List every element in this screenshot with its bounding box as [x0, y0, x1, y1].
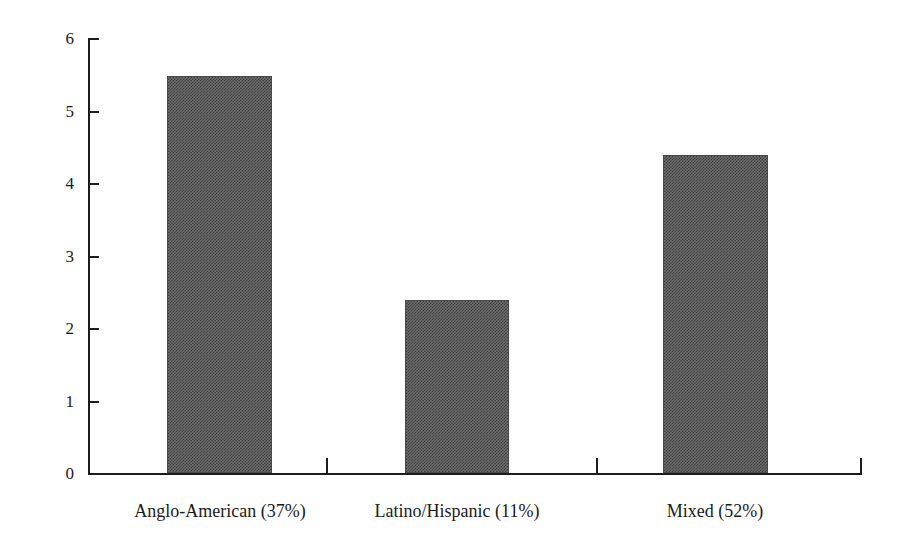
x-axis-tick-1: [326, 458, 328, 475]
x-axis-end-cap: [860, 458, 862, 475]
y-axis-tick-4: [88, 183, 99, 185]
y-axis-label-0: 0: [40, 465, 74, 482]
bar-mixed: [663, 155, 768, 473]
bar-latino-hispanic: [405, 300, 509, 473]
y-axis-label-2: 2: [40, 320, 74, 337]
y-axis-label-4: 4: [40, 175, 74, 192]
x-axis-category-label-latino-hispanic: Latino/Hispanic (11%): [336, 500, 578, 522]
plot-area: 6 5 4 3 2 1 0 Anglo-American (37%) Latin…: [0, 0, 897, 551]
x-axis-category-label-mixed: Mixed (52%): [594, 500, 836, 522]
x-axis-category-label-anglo-american: Anglo-American (37%): [99, 500, 341, 522]
y-axis-label-3: 3: [40, 248, 74, 265]
y-axis-tick-1: [88, 401, 99, 403]
bar-anglo-american: [167, 76, 272, 473]
y-axis-tick-5: [88, 111, 99, 113]
bar-chart: 6 5 4 3 2 1 0 Anglo-American (37%) Latin…: [0, 0, 897, 551]
y-axis-tick-3: [88, 256, 99, 258]
y-axis-tick-2: [88, 328, 99, 330]
y-axis-label-6: 6: [40, 30, 74, 47]
x-axis-tick-2: [596, 458, 598, 475]
y-axis-label-1: 1: [40, 393, 74, 410]
y-axis-label-5: 5: [40, 103, 74, 120]
x-axis-line: [88, 473, 862, 475]
y-axis-tick-6: [88, 38, 99, 40]
